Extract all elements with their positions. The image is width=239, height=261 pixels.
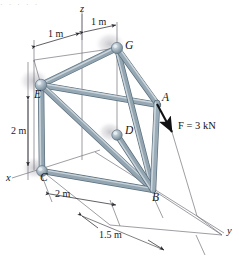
- ground-edge-near-y: [110, 225, 222, 235]
- dimension-label-depth: 1.5 m: [99, 230, 122, 240]
- dim-line-1p5m: [82, 216, 164, 250]
- truss-joints: [35, 42, 122, 176]
- joint-label-A: A: [162, 92, 169, 104]
- truss-figure: · · · · ·: [0, 0, 239, 261]
- axis-label-y: y: [227, 226, 232, 237]
- force-projection-line: [172, 132, 197, 216]
- dim-arrow-1p5m-a: [82, 216, 98, 228]
- ground-edge-B-y: [153, 190, 222, 235]
- joint-G: [111, 42, 122, 53]
- dimension-label-top-right: 1 m: [91, 17, 106, 27]
- joint-label-C: C: [40, 172, 48, 184]
- dim-arrow-1p5m-b: [148, 240, 164, 250]
- force-label: F = 3 kN: [178, 121, 216, 132]
- joint-label-B: B: [152, 192, 159, 204]
- member-E-G: [41, 47, 118, 85]
- force-ground-line: [197, 216, 222, 235]
- joint-D: [112, 130, 122, 140]
- joint-label-G: G: [125, 40, 133, 52]
- dimension-label-base: 2 m: [55, 189, 70, 199]
- member-A-B: [151, 103, 157, 190]
- axis-label-x: x: [6, 173, 11, 184]
- dimension-label-top-left: 1 m: [48, 29, 63, 39]
- dimension-label-vertical: 2 m: [11, 126, 26, 136]
- joint-label-D: D: [125, 125, 133, 137]
- axis-label-z: z: [80, 4, 84, 15]
- dim-guide-bot-far: [196, 235, 205, 255]
- axis-line-y: [95, 152, 224, 233]
- truss-members: [40, 47, 160, 191]
- joint-label-E: E: [34, 89, 41, 101]
